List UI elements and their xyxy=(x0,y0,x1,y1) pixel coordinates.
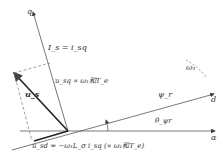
vector-diagram xyxy=(0,0,223,159)
usd-label: u_sd = −ω₁L_σ i_sq (∝ ω₁和T_e) xyxy=(32,143,144,150)
theta-label: θ_ψr xyxy=(155,118,172,125)
alpha-label: α xyxy=(211,134,216,142)
d-label: d xyxy=(211,96,216,104)
omega-label: ω₁ xyxy=(186,64,196,72)
theta-arc xyxy=(106,120,108,131)
us-label: u_s xyxy=(25,90,39,98)
psi-label: ψ_r xyxy=(158,91,172,99)
usq-label: u_sq ∝ ω₁和T_e xyxy=(55,78,108,85)
is-label: I_s = i_sq xyxy=(48,44,87,52)
q-label: q xyxy=(27,8,32,16)
